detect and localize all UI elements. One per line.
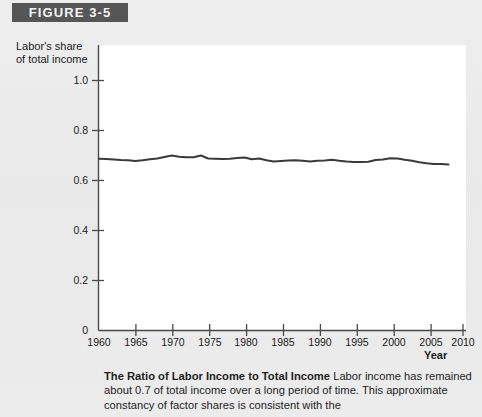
x-axis-title: Year (424, 349, 447, 361)
x-tick-label-2000: 2000 (374, 336, 414, 348)
x-tick-label-1990: 1990 (300, 336, 340, 348)
x-tick-label-1980: 1980 (226, 336, 266, 348)
x-tick-label-1975: 1975 (190, 336, 230, 348)
y-tick-label-4: 0.4 (48, 224, 88, 236)
chart-svg (0, 0, 482, 417)
y-tick-label-1: 1.0 (48, 74, 88, 86)
y-tick-label-5: 0.2 (48, 274, 88, 286)
figure-caption: The Ratio of Labor Income to Total Incom… (104, 369, 476, 412)
labor-share-data-line (99, 156, 448, 165)
y-tick-label-2: 0.8 (48, 124, 88, 136)
x-tick-label-1965: 1965 (116, 336, 156, 348)
figure-caption-title: The Ratio of Labor Income to Total Incom… (104, 370, 330, 382)
x-tick-label-1960: 1960 (79, 336, 119, 348)
x-tick-label-1970: 1970 (153, 336, 193, 348)
x-tick-label-2010: 2010 (443, 336, 482, 348)
x-tick-label-1995: 1995 (337, 336, 377, 348)
y-tick-label-6: 0 (48, 324, 88, 336)
y-tick-label-3: 0.6 (48, 174, 88, 186)
x-tick-label-1985: 1985 (263, 336, 303, 348)
